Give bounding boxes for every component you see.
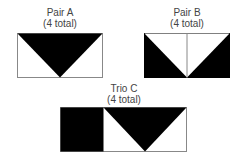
trio-c-block	[61, 108, 187, 152]
quilt-block-diagram	[0, 0, 235, 155]
pair-b-block	[145, 34, 230, 78]
pair-a-block	[18, 34, 103, 78]
